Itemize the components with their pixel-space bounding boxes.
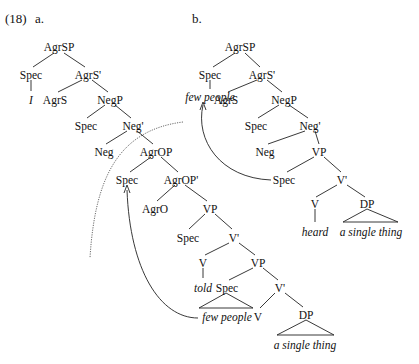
node-spec: Spec — [75, 120, 97, 133]
node-spec: Spec — [273, 174, 295, 187]
node-v-bar: V' — [275, 282, 285, 294]
label-b: b. — [192, 11, 202, 26]
node-neg-bar: Neg' — [122, 120, 143, 133]
tree-b-labels: AgrSP Spec AgrS' few people AgrS NegP Sp… — [185, 41, 402, 239]
node-agrs: AgrS — [214, 94, 238, 107]
node-negp: NegP — [271, 94, 297, 107]
node-spec: Spec — [20, 69, 42, 82]
node-vp: VP — [251, 257, 266, 269]
node-spec: Spec — [177, 232, 199, 245]
leaf-few-people: few people — [202, 311, 252, 324]
node-v: V — [254, 311, 263, 323]
node-agrop: AgrOP — [140, 146, 173, 159]
node-v: V — [311, 198, 320, 210]
leaf-a-single-thing: a single thing — [340, 226, 403, 239]
node-agrs: AgrS — [43, 94, 67, 107]
node-v: V — [199, 257, 208, 269]
node-spec: Spec — [116, 174, 138, 187]
node-dp: DP — [299, 309, 314, 321]
leaf-a-single-thing: a single thing — [274, 339, 337, 352]
node-agrop-bar: AgrOP' — [164, 174, 199, 187]
node-neg: Neg — [94, 146, 113, 159]
node-spec: Spec — [199, 69, 221, 82]
node-agrs-bar: AgrS' — [249, 69, 275, 82]
node-v-bar: V' — [337, 174, 347, 186]
leaf-heard: heard — [302, 226, 329, 238]
node-neg: Neg — [255, 146, 274, 159]
leaf-told: told — [194, 282, 212, 294]
node-agrsp: AgrSP — [225, 41, 256, 54]
example-number: (18) — [5, 11, 27, 26]
node-v-bar: V' — [229, 232, 239, 244]
node-vp: VP — [203, 203, 218, 215]
leaf-i: I — [28, 94, 34, 106]
node-dp: DP — [360, 198, 375, 210]
node-agro: AgrO — [142, 203, 168, 216]
node-neg-bar: Neg' — [299, 120, 320, 133]
node-agrs-bar: AgrS' — [75, 69, 101, 82]
node-spec: Spec — [245, 120, 267, 133]
node-negp: NegP — [97, 94, 123, 107]
node-vp: VP — [312, 146, 327, 158]
node-spec: Spec — [216, 282, 238, 295]
syntax-tree-diagram: (18) a. b. — [0, 0, 419, 364]
tree-b-edges — [210, 53, 398, 222]
label-a: a. — [35, 11, 44, 26]
node-agrsp: AgrSP — [44, 41, 75, 54]
